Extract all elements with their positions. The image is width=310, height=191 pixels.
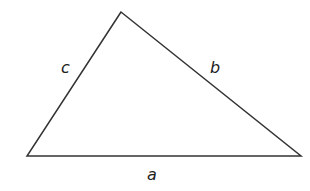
triangle-shape (27, 12, 301, 156)
side-label-a: a (147, 165, 157, 184)
side-label-c: c (61, 58, 70, 77)
triangle-diagram: c b a (0, 0, 310, 191)
side-label-b: b (210, 58, 220, 77)
